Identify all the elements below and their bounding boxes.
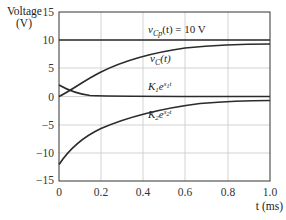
svg-text:0: 0	[48, 91, 54, 103]
annotation-k2: K2es2t	[147, 108, 172, 122]
y-tick-labels: 15 10 5 0 −5 −10 −15	[36, 6, 54, 186]
annotation-vcp: vCp(t) = 10 V	[148, 23, 206, 38]
svg-text:0.6: 0.6	[178, 186, 193, 198]
svg-text:0.2: 0.2	[94, 186, 109, 198]
svg-text:0.8: 0.8	[221, 186, 236, 198]
svg-text:10: 10	[43, 34, 55, 46]
x-axis-label: t (ms)	[256, 200, 283, 213]
svg-text:−5: −5	[42, 119, 54, 131]
annotation-vc: vC(t)	[150, 52, 171, 67]
svg-text:−10: −10	[36, 147, 54, 159]
annotation-k1: K1es1t	[147, 80, 172, 94]
svg-text:1.0: 1.0	[263, 186, 278, 198]
y-axis-label-unit: (V)	[16, 17, 32, 30]
x-tick-labels: 0 0.2 0.4 0.6 0.8 1.0	[56, 186, 277, 198]
voltage-chart: Voltage (V) 15 10 5 0 −5 −10 −15 0 0.2 0…	[0, 0, 286, 220]
svg-text:−15: −15	[36, 174, 54, 186]
svg-text:0: 0	[56, 186, 62, 198]
svg-text:15: 15	[43, 6, 55, 18]
svg-text:5: 5	[48, 62, 54, 74]
svg-text:0.4: 0.4	[136, 186, 151, 198]
